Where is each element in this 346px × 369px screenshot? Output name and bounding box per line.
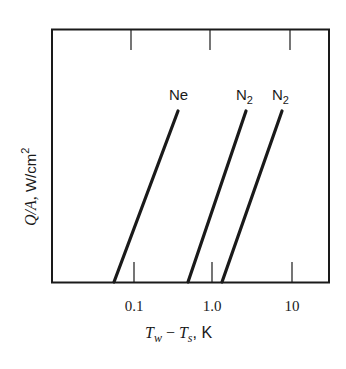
plot-frame bbox=[52, 30, 329, 283]
x-tick-label-10: 10 bbox=[285, 298, 300, 314]
series-label-ne: Ne bbox=[169, 86, 188, 103]
series-line-n2-b bbox=[222, 111, 282, 282]
n2a-main: N bbox=[236, 86, 247, 103]
series-label-n2-b: N2 bbox=[272, 86, 289, 106]
xlabel-w: w bbox=[154, 331, 162, 345]
ylabel-QA: Q/A, bbox=[22, 196, 39, 226]
chart: Ne N2 N2 0.1 1.0 10 Tw − Ts, K Q/A, W/cm… bbox=[0, 0, 346, 369]
n2a-sub: 2 bbox=[247, 94, 253, 106]
series-line-ne bbox=[114, 111, 178, 282]
x-axis-label: Tw − Ts, K bbox=[145, 324, 212, 345]
ylabel-unit: W/cm bbox=[22, 154, 39, 197]
x-tick-label-0.1: 0.1 bbox=[125, 298, 144, 314]
series-label-n2-a: N2 bbox=[236, 86, 253, 106]
series-line-n2-a bbox=[188, 111, 246, 282]
n2b-sub: 2 bbox=[283, 94, 289, 106]
xlabel-minus: − bbox=[162, 324, 179, 341]
n2b-main: N bbox=[272, 86, 283, 103]
y-axis-label: Q/A, W/cm2 bbox=[19, 148, 39, 226]
ylabel-sup: 2 bbox=[19, 148, 31, 154]
x-tick-label-1.0: 1.0 bbox=[203, 298, 222, 314]
xlabel-unit: , K bbox=[193, 324, 213, 341]
